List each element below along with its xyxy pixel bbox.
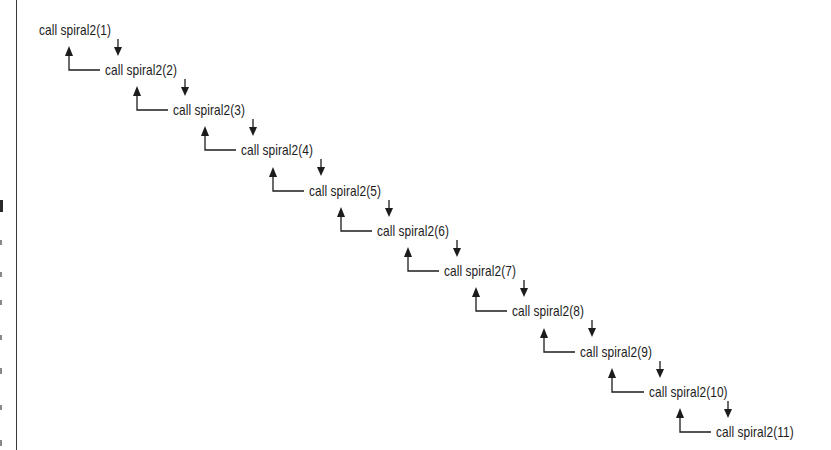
return-arrow-icon — [337, 207, 372, 231]
return-arrow-icon — [201, 126, 236, 150]
down-arrow-icon — [114, 39, 122, 56]
down-arrow-icon — [385, 200, 393, 217]
recursion-call-diagram: call spiral2(1) call spiral2(2) call spi… — [0, 0, 831, 450]
down-arrow-icon — [249, 119, 257, 136]
down-arrow-icon — [181, 79, 189, 96]
return-arrow-icon — [269, 167, 304, 191]
return-arrow-icon — [540, 328, 575, 352]
return-arrow-icon — [676, 408, 711, 432]
return-arrow-icon — [404, 247, 439, 271]
connector-layer — [0, 0, 831, 450]
down-arrow-icon — [724, 401, 732, 418]
down-arrow-icon — [453, 240, 461, 257]
return-arrow-icon — [65, 46, 100, 70]
return-arrow-icon — [472, 287, 507, 311]
return-arrow-icon — [133, 86, 168, 110]
return-arrow-icon — [608, 368, 644, 392]
down-arrow-icon — [656, 361, 664, 378]
down-arrow-icon — [520, 280, 528, 297]
down-arrow-icon — [317, 159, 325, 176]
down-arrow-icon — [588, 320, 596, 337]
